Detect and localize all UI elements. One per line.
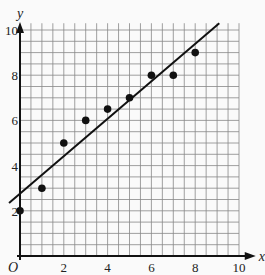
data-point (148, 71, 156, 79)
x-tick-label: 8 (192, 260, 199, 275)
scatter-chart: 246810246810Oxy (0, 0, 265, 275)
axis-labels: 246810246810Oxy (5, 6, 265, 275)
best-fit-line (9, 23, 219, 203)
y-tick-label: 6 (12, 113, 19, 128)
best-fit-line (9, 23, 219, 203)
data-point (191, 49, 199, 57)
data-point (60, 139, 68, 147)
y-axis-label: y (15, 6, 24, 21)
x-tick-label: 6 (148, 260, 155, 275)
data-point (170, 71, 178, 79)
x-tick-label: 10 (233, 260, 246, 275)
x-tick-label: 2 (61, 260, 68, 275)
y-tick-label: 10 (5, 23, 18, 38)
data-point (126, 94, 134, 102)
data-point (104, 105, 112, 113)
x-axis-arrow-icon (245, 252, 256, 260)
data-point (82, 117, 90, 125)
y-tick-label: 4 (12, 159, 19, 174)
grid (20, 23, 239, 256)
x-axis-label: x (258, 249, 265, 264)
y-tick-label: 2 (12, 204, 19, 219)
y-tick-label: 8 (12, 68, 19, 83)
axes (16, 22, 256, 260)
x-tick-label: 4 (104, 260, 111, 275)
origin-label: O (8, 260, 18, 275)
data-point (38, 184, 46, 192)
